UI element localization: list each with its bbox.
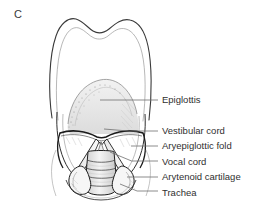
label-trachea: Trachea: [162, 187, 197, 198]
label-aryepiglottic-fold: Aryepiglottic fold: [162, 140, 232, 151]
label-vestibular-cord: Vestibular cord: [162, 125, 225, 136]
annotation-labels: EpiglottisVestibular cordAryepiglottic f…: [0, 0, 266, 209]
anatomical-figure: C EpiglottisVestibular cordAryepiglottic…: [0, 0, 266, 209]
label-epiglottis: Epiglottis: [162, 94, 201, 105]
label-arytenoid-cartilage: Arytenoid cartilage: [162, 171, 241, 182]
label-vocal-cord: Vocal cord: [162, 156, 206, 167]
